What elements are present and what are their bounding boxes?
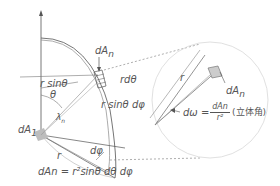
zoom-circle <box>152 42 268 158</box>
label-r-dtheta: rdθ <box>120 75 137 85</box>
label-solid-angle: (立体角) <box>232 108 266 117</box>
label-dphi: dφ <box>90 146 103 156</box>
label-dAn: dAn <box>95 46 114 59</box>
zoom-dAn-patch <box>208 66 222 78</box>
label-lambda-n: λn <box>56 113 65 124</box>
label-r-bottom: r <box>57 151 61 161</box>
zoom-guide-bottom <box>110 158 200 160</box>
label-r-sin-theta-dphi: r sinθ dφ <box>101 100 145 110</box>
label-dA1: dA1 <box>18 125 37 138</box>
label-theta: θ <box>50 90 56 100</box>
fraction: dAn r² <box>210 103 230 122</box>
label-r-zoom: r <box>180 73 184 83</box>
label-d-omega: dω = <box>183 108 209 118</box>
axis-arrow-icon <box>39 10 43 16</box>
zoom-guide-top <box>104 44 200 70</box>
label-formula: dAn = r²sinθ dθ dφ <box>38 167 133 177</box>
label-dAn-zoom: dAn <box>226 86 245 99</box>
label-r-sin-theta: r sinθ <box>40 79 68 89</box>
